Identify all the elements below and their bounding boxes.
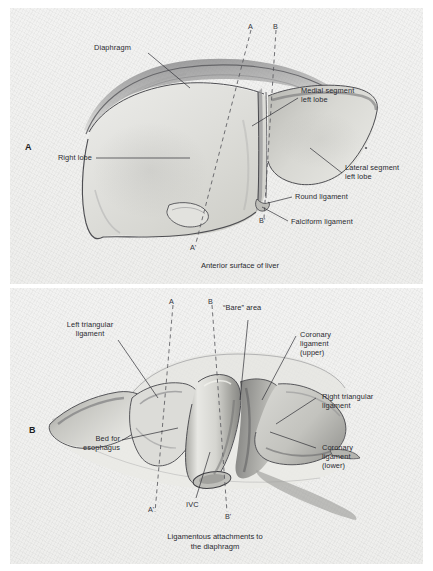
panel-a-paper (10, 8, 423, 284)
label-bare-area: “Bare” area (223, 303, 261, 312)
panel-a-caption: Anterior surface of liver (150, 261, 330, 271)
panel-b-caption: Ligamentous attachments to the diaphragm (125, 532, 305, 551)
label-coronary-ligament-lower: Coronary ligament (lower) (322, 443, 353, 470)
label-falciform-ligament: Falciform ligament (291, 217, 353, 226)
label-left-triangular-ligament: Left triangular ligament (48, 320, 132, 338)
figure-plate: A Diaphragm Right lobe Medial segment le… (0, 0, 433, 571)
label-bed-for-esophagus: Bed for esophagus (42, 434, 120, 452)
label-round-ligament: Round ligament (295, 192, 348, 201)
section-marker-b-top-panel-b: B (208, 297, 213, 306)
section-marker-b-bottom-panel-b: B' (225, 512, 231, 521)
label-right-triangular-ligament: Right triangular ligament (322, 392, 373, 410)
label-coronary-ligament-upper: Coronary ligament (upper) (300, 330, 331, 357)
label-right-lobe: Right lobe (20, 153, 92, 162)
section-marker-a-bottom-panel-b: A' (148, 505, 154, 514)
panel-b-letter: B (29, 425, 36, 435)
label-lateral-segment-left-lobe: Lateral segment left lobe (345, 163, 399, 181)
section-marker-a-top-panel-b: A (169, 297, 174, 306)
label-medial-segment-left-lobe: Medial segment left lobe (301, 86, 354, 104)
label-ivc: IVC (186, 500, 199, 509)
section-marker-a-bottom-panel-a: A' (190, 243, 196, 252)
panel-a-letter: A (25, 142, 32, 152)
section-marker-a-top-panel-a: A (248, 22, 253, 31)
section-marker-b-bottom-panel-a: B' (259, 216, 265, 225)
section-marker-b-top-panel-a: B (273, 22, 278, 31)
label-diaphragm: Diaphragm (94, 43, 131, 52)
